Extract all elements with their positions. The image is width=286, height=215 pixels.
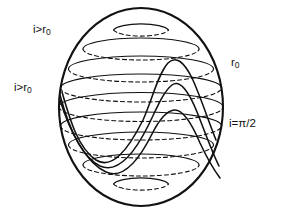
figure-root: i>r0 i>r0 r0 i=π/2 xyxy=(0,0,286,215)
label-top-base: i>r xyxy=(33,23,46,35)
label-mid-base: i>r xyxy=(14,81,27,93)
sphere-diagram: i>r0 i>r0 r0 i=π/2 xyxy=(0,0,286,215)
label-mid-subscript: 0 xyxy=(27,85,32,95)
label-top-subscript: 0 xyxy=(46,27,51,37)
label-r0-subscript: 0 xyxy=(235,60,240,70)
label-inclination-pi-over-two: i=π/2 xyxy=(229,117,256,129)
